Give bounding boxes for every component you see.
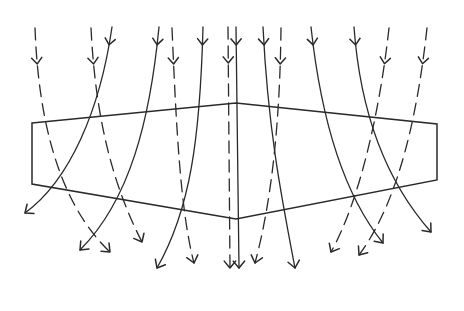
slab-outline: [32, 103, 437, 219]
ray-solid-6: [155, 27, 207, 268]
arrowhead-icon: [329, 243, 339, 252]
prism-slab: [32, 103, 437, 219]
ray-dashed-7: [223, 27, 236, 268]
refraction-diagram: [0, 0, 464, 311]
ray-solid-11: [307, 27, 383, 243]
ray-dashed-2: [88, 28, 144, 242]
ray-dashed-9: [251, 28, 285, 263]
ray-dashed-14: [358, 28, 428, 255]
light-rays: [25, 27, 431, 268]
ray-dashed-5: [168, 28, 198, 263]
ray-solid-4: [80, 27, 163, 250]
ray-dashed-1: [32, 28, 110, 252]
ray-solid-8: [231, 27, 245, 268]
